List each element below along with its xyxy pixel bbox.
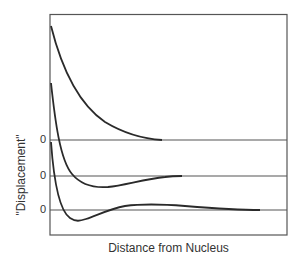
zero-label-1: 0 xyxy=(40,134,46,145)
diagram-canvas xyxy=(0,0,301,257)
curve-1 xyxy=(51,26,162,140)
zero-label-3: 0 xyxy=(40,204,46,215)
x-axis-label: Distance from Nucleus xyxy=(50,241,287,255)
y-axis-label: "Displacement" xyxy=(14,125,28,225)
curve-2 xyxy=(51,83,182,187)
plot-frame xyxy=(50,15,287,236)
zero-label-2: 0 xyxy=(40,170,46,181)
curve-3 xyxy=(51,142,260,221)
